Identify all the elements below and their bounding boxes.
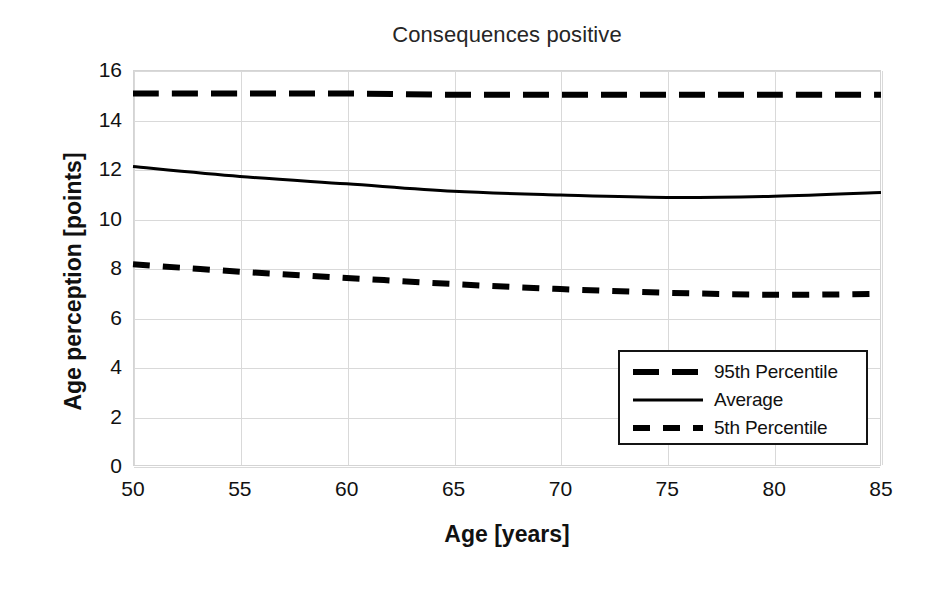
y-axis-ticks: 0246810121416 bbox=[60, 70, 122, 466]
gridline-vertical bbox=[882, 71, 883, 465]
legend-item: 95th Percentile bbox=[620, 358, 866, 386]
legend-label: 5th Percentile bbox=[714, 417, 827, 439]
x-tick-label: 85 bbox=[846, 477, 916, 501]
legend-label: Average bbox=[714, 389, 783, 411]
x-tick-label: 75 bbox=[632, 477, 702, 501]
x-tick-label: 65 bbox=[419, 477, 489, 501]
y-tick-label: 6 bbox=[62, 306, 122, 330]
series-line bbox=[133, 93, 881, 94]
y-tick-label: 2 bbox=[62, 405, 122, 429]
y-tick-label: 8 bbox=[62, 256, 122, 280]
x-tick-label: 50 bbox=[98, 477, 168, 501]
y-tick-label: 16 bbox=[62, 58, 122, 82]
x-tick-label: 60 bbox=[312, 477, 382, 501]
chart-legend: 95th PercentileAverage5th Percentile bbox=[618, 350, 868, 445]
y-tick-label: 0 bbox=[62, 454, 122, 478]
legend-item: Average bbox=[620, 386, 866, 414]
legend-line-swatch bbox=[632, 392, 704, 408]
series-line bbox=[133, 167, 881, 198]
x-axis-ticks: 5055606570758085 bbox=[133, 477, 881, 507]
y-tick-label: 4 bbox=[62, 355, 122, 379]
gridline-horizontal bbox=[134, 467, 880, 468]
legend-line-swatch bbox=[632, 364, 704, 380]
legend-item: 5th Percentile bbox=[620, 414, 866, 442]
chart-title: Consequences positive bbox=[133, 22, 881, 48]
x-tick-label: 80 bbox=[739, 477, 809, 501]
y-tick-label: 14 bbox=[62, 108, 122, 132]
y-tick-label: 10 bbox=[62, 207, 122, 231]
chart-figure: Consequences positive Age perception [po… bbox=[0, 0, 945, 595]
y-tick-label: 12 bbox=[62, 157, 122, 181]
x-axis-title: Age [years] bbox=[133, 521, 881, 548]
series-line bbox=[133, 264, 881, 294]
x-tick-label: 55 bbox=[205, 477, 275, 501]
legend-label: 95th Percentile bbox=[714, 361, 838, 383]
legend-line-swatch bbox=[632, 420, 704, 436]
x-tick-label: 70 bbox=[525, 477, 595, 501]
